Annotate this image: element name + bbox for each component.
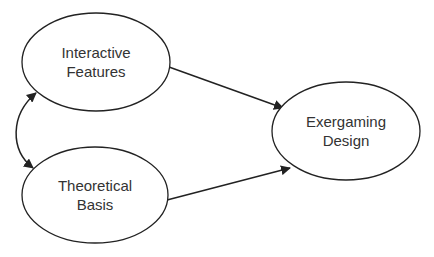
node-label-line2: Features bbox=[66, 63, 125, 80]
edge-interactive-theoretical-correlation bbox=[16, 93, 36, 168]
node-exergaming-design: Exergaming Design bbox=[272, 82, 420, 180]
ellipse-shape bbox=[22, 13, 170, 111]
edge-interactive-to-exergaming bbox=[169, 67, 283, 108]
edge-theoretical-to-exergaming bbox=[167, 168, 290, 200]
ellipse-shape bbox=[272, 82, 420, 180]
node-label-line2: Design bbox=[323, 132, 370, 149]
node-interactive-features: Interactive Features bbox=[22, 13, 170, 111]
ellipse-shape bbox=[22, 147, 168, 243]
node-theoretical-basis: Theoretical Basis bbox=[22, 147, 168, 243]
node-label-line1: Exergaming bbox=[306, 113, 386, 130]
node-label-line2: Basis bbox=[77, 196, 114, 213]
node-label-line1: Interactive bbox=[61, 44, 130, 61]
path-diagram: Interactive Features Theoretical Basis E… bbox=[0, 0, 434, 257]
node-label-line1: Theoretical bbox=[58, 177, 132, 194]
